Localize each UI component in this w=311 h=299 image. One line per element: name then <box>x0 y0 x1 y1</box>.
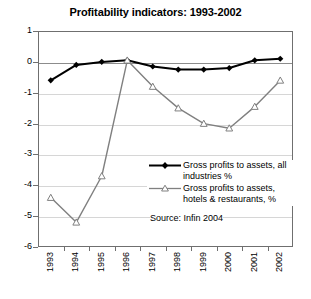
legend-label-all-industries-line1: Gross profits to assets, all <box>183 160 287 170</box>
gridline--2 <box>39 125 292 126</box>
x-tick-mark-1998 <box>191 247 192 251</box>
y-tick-label--6: -6 <box>0 242 32 251</box>
y-tick-label--2: -2 <box>0 119 32 128</box>
x-tick-mark-1994 <box>89 247 90 251</box>
x-tick-label-2002: 2002 <box>275 252 284 272</box>
x-tick-mark-2000 <box>242 247 243 251</box>
y-tick-label--5: -5 <box>0 211 32 220</box>
x-tick-mark-2001 <box>268 247 269 251</box>
y-tick-label--1: -1 <box>0 88 32 97</box>
chart-title: Profitability indicators: 1993-2002 <box>0 6 311 18</box>
legend-item-all-industries: Gross profits to assets, all industries … <box>147 160 299 182</box>
legend-item-hotels-restaurants: Gross profits to assets, hotels & restau… <box>147 183 299 205</box>
x-tick-mark-1999 <box>217 247 218 251</box>
x-tick-label-2001: 2001 <box>250 252 259 272</box>
x-tick-mark-1996 <box>140 247 141 251</box>
source-note: Source: Infin 2004 <box>150 213 223 223</box>
x-tick-label-1996: 1996 <box>122 252 131 272</box>
x-tick-label-1999: 1999 <box>199 252 208 272</box>
y-tick-label-0: 0 <box>0 57 32 66</box>
y-tick-label--4: -4 <box>0 180 32 189</box>
legend-label-all-industries: Gross profits to assets, all industries … <box>183 160 299 182</box>
gridline--1 <box>39 94 292 95</box>
gridline-0 <box>39 63 292 64</box>
x-tick-mark-1995 <box>115 247 116 251</box>
y-tick-label--3: -3 <box>0 149 32 158</box>
x-tick-mark-1997 <box>166 247 167 251</box>
legend-label-all-industries-line2: industries % <box>183 171 299 182</box>
x-tick-label-1998: 1998 <box>173 252 182 272</box>
x-tick-mark-1993 <box>64 247 65 251</box>
legend-marker-open-triangle-icon <box>147 183 183 194</box>
gridline--3 <box>39 155 292 156</box>
x-tick-label-1994: 1994 <box>71 252 80 272</box>
y-tick-label-1: 1 <box>0 26 32 35</box>
x-tick-label-1997: 1997 <box>148 252 157 272</box>
chart-container: Profitability indicators: 1993-2002 10-1… <box>0 0 311 299</box>
x-tick-label-2000: 2000 <box>224 252 233 272</box>
legend-marker-filled-diamond-icon <box>147 160 183 171</box>
legend-label-hotels-restaurants-line2: hotels & restaurants, % <box>183 194 299 205</box>
x-tick-label-1993: 1993 <box>46 252 55 272</box>
legend-label-hotels-restaurants-line1: Gross profits to assets, <box>183 183 275 193</box>
y-tick-mark--6 <box>33 247 38 248</box>
chart-legend: Gross profits to assets, all industries … <box>147 160 299 206</box>
x-tick-label-1995: 1995 <box>97 252 106 272</box>
legend-label-hotels-restaurants: Gross profits to assets, hotels & restau… <box>183 183 299 205</box>
